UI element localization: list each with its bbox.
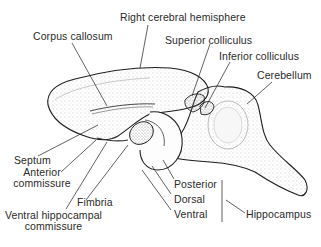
label-superior-colliculus: Superior colliculus <box>165 35 252 46</box>
label-right-cerebral-hemisphere: Right cerebral hemisphere <box>120 12 246 23</box>
label-anterior-commissure: Anterior commissure <box>12 167 72 189</box>
label-inferior-colliculus: Inferior colliculus <box>219 51 299 62</box>
label-ventral-hippocampal-commissure: Ventral hippocampal commissure <box>0 210 107 232</box>
label-anterior-commissure-line2: commissure <box>12 178 72 189</box>
label-ventral: Ventral <box>174 209 207 220</box>
label-posterior: Posterior <box>174 179 217 190</box>
label-fimbria: Fimbria <box>77 197 113 208</box>
label-hippocampus: Hippocampus <box>246 209 311 220</box>
label-corpus-callosum: Corpus callosum <box>33 31 113 42</box>
brain-diagram: Right cerebral hemisphere Corpus callosu… <box>0 0 321 247</box>
label-dorsal: Dorsal <box>174 194 205 205</box>
label-cerebellum: Cerebellum <box>257 70 312 81</box>
label-vhc-line2: commissure <box>0 221 107 232</box>
label-septum: Septum <box>14 155 51 166</box>
